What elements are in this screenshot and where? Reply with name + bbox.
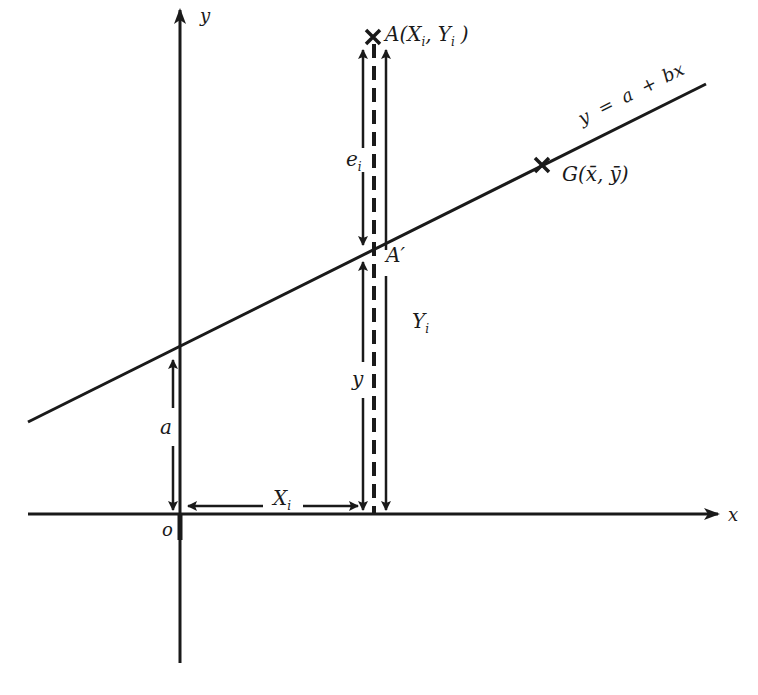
x-axis-label: x (728, 504, 738, 525)
regression-line-group: y = a + bx (28, 58, 706, 422)
fitted-y-arrow: y (351, 262, 364, 510)
intercept-arrow: a (160, 360, 173, 510)
x-distance-arrow: Xi (188, 486, 358, 513)
y-axis-label: y (199, 5, 211, 26)
origin-label: o (162, 519, 173, 540)
cross-marker-icon (535, 158, 549, 172)
equation-a: a (617, 84, 636, 108)
residual-label: ei (346, 147, 362, 174)
cross-marker-icon (366, 30, 380, 44)
equation-y: y (574, 105, 594, 129)
intercept-label: a (160, 415, 172, 439)
residual-arrow: ei (346, 50, 363, 245)
equation-plus: + (637, 72, 660, 98)
point-g-label: G(x̄,ȳ) (562, 162, 629, 186)
regression-line (28, 84, 706, 422)
regression-diagram: y x o y = a + bx A(Xi,Yi) G(x̄,ȳ) A′ (0, 0, 758, 695)
equation-equals: = (594, 93, 617, 119)
point-a-label: A(Xi,Yi) (383, 22, 469, 49)
regression-equation: y = a + bx (574, 58, 688, 129)
point-a: A(Xi,Yi) (366, 22, 469, 49)
equation-bx: bx (659, 58, 688, 86)
observed-y-arrow: Yi (386, 50, 429, 510)
observed-y-label: Yi (412, 309, 429, 336)
x-distance-label: Xi (271, 486, 291, 513)
fitted-y-label: y (351, 367, 364, 391)
